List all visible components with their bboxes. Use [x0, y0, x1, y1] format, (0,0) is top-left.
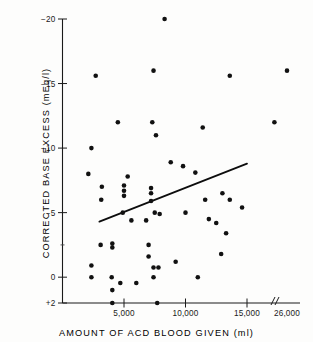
data-point — [168, 160, 173, 165]
data-point — [155, 301, 160, 306]
data-point — [146, 243, 151, 248]
data-point — [200, 125, 205, 130]
data-point — [149, 191, 154, 196]
data-point — [100, 185, 105, 190]
data-point — [110, 301, 115, 306]
data-point — [154, 133, 159, 138]
x-tick-label: 15,000 — [234, 309, 260, 318]
x-axis-title: AMOUNT OF ACD BLOOD GIVEN (ml) — [59, 328, 254, 338]
axes — [63, 19, 301, 303]
x-tick-label: 10,000 — [172, 309, 198, 318]
data-point — [173, 259, 178, 264]
data-point — [150, 120, 155, 125]
data-point — [227, 74, 232, 79]
data-point — [214, 221, 219, 226]
data-point — [89, 275, 94, 280]
data-point — [110, 288, 115, 293]
data-point — [98, 243, 103, 248]
data-point — [99, 197, 104, 202]
data-point — [122, 183, 127, 188]
data-point — [122, 194, 127, 199]
data-point — [149, 199, 154, 204]
data-point — [93, 74, 98, 79]
data-point — [151, 68, 156, 73]
data-point — [207, 217, 212, 222]
y-axis-title: CORRECTED BASE EXCESS (mEq/l) — [41, 68, 51, 259]
data-point — [151, 275, 156, 280]
data-point — [110, 245, 115, 250]
data-point — [144, 218, 149, 223]
data-point — [183, 210, 188, 215]
data-point — [227, 197, 232, 202]
data-point — [118, 281, 123, 286]
data-point — [220, 191, 225, 196]
data-point — [156, 265, 161, 270]
data-point — [219, 252, 224, 257]
data-point — [122, 188, 127, 193]
data-point — [89, 263, 94, 268]
data-point — [89, 146, 94, 151]
x-tick-label: 5,000 — [113, 309, 135, 318]
data-point — [109, 275, 114, 280]
scatter-plot-figure: −20−15−10−50+25,00010,00015,00026,000 AM… — [0, 0, 313, 342]
data-point — [120, 210, 125, 215]
x-tick-label: 26,000 — [274, 309, 300, 318]
data-point — [240, 205, 245, 210]
tick-labels: −20−15−10−50+25,00010,00015,00026,000 — [41, 15, 300, 318]
data-point — [116, 120, 121, 125]
data-point — [86, 172, 91, 177]
data-point — [129, 218, 134, 223]
data-point — [193, 170, 198, 175]
data-point — [196, 275, 201, 280]
data-point — [151, 265, 156, 270]
data-point — [203, 197, 208, 202]
data-point — [152, 210, 157, 215]
data-point — [162, 17, 167, 22]
data-points — [86, 17, 289, 306]
data-point — [146, 254, 151, 259]
data-point — [272, 120, 277, 125]
axis-break-slash — [275, 297, 279, 305]
axis-break-slash — [271, 297, 275, 305]
data-point — [125, 174, 130, 179]
data-point — [285, 68, 290, 73]
data-point — [157, 212, 162, 217]
data-point — [181, 164, 186, 169]
data-point — [134, 281, 139, 286]
data-point — [149, 186, 154, 191]
data-point — [224, 231, 229, 236]
